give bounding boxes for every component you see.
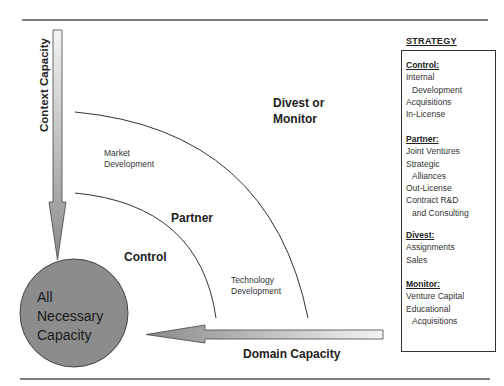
domain-capacity-arrow [146, 325, 383, 343]
strategy-title: STRATEGY [406, 36, 457, 46]
strategy-section-partner: Partner: Joint Ventures Strategic Allian… [406, 133, 469, 219]
domain-capacity-label: Domain Capacity [243, 346, 340, 362]
technology-development-label: Technology Development [231, 275, 281, 297]
strategy-section-monitor: Monitor: Venture Capital Educational Acq… [406, 278, 464, 327]
context-capacity-label: Context Capacity [36, 30, 52, 140]
market-development-label: Market Development [104, 148, 154, 170]
strategy-section-control: Control: Internal Development Acquisitio… [406, 59, 462, 120]
partner-region-label: Partner [171, 210, 213, 226]
control-region-label: Control [124, 249, 167, 265]
center-label: All Necessary Capacity [37, 288, 103, 345]
strategy-section-divest: Divest: Assignments Sales [406, 229, 455, 266]
divest-monitor-region-label: Divest or Monitor [273, 95, 324, 127]
